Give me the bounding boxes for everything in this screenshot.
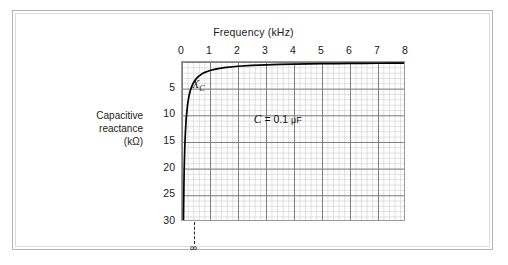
capacitance-unit: μF — [291, 115, 302, 125]
x-tick-label-2: 2 — [227, 44, 247, 56]
infinity-dashed-line — [194, 222, 195, 244]
figure-frame: Frequency (kHz) 012345678 Capacitive rea… — [12, 10, 493, 250]
curve-label-xc: XC — [192, 78, 204, 93]
capacitance-annotation: C = 0.1 μF — [254, 113, 302, 125]
y-tick-label-25: 25 — [141, 187, 175, 199]
x-tick-label-8: 8 — [395, 44, 415, 56]
y-axis-label-line-3: (kΩ) — [21, 135, 143, 148]
plot-area — [181, 61, 405, 221]
y-tick-label-20: 20 — [141, 161, 175, 173]
y-axis-tick-labels: 51015202530 — [139, 11, 175, 251]
y-tick-label-15: 15 — [141, 134, 175, 146]
capacitive-reactance-curve — [182, 62, 405, 221]
x-axis-tick-labels: 012345678 — [13, 44, 494, 58]
y-axis-label-line-1: Capacitive — [21, 109, 143, 122]
infinity-symbol: ∞ — [183, 242, 205, 253]
y-axis-label-line-2: reactance — [21, 122, 143, 135]
x-tick-label-5: 5 — [311, 44, 331, 56]
x-tick-label-6: 6 — [339, 44, 359, 56]
x-tick-label-7: 7 — [367, 44, 387, 56]
y-axis-label: Capacitive reactance (kΩ) — [21, 109, 143, 148]
xc-subscript: C — [199, 84, 204, 93]
x-tick-label-1: 1 — [199, 44, 219, 56]
y-tick-label-30: 30 — [141, 214, 175, 226]
x-tick-label-3: 3 — [255, 44, 275, 56]
x-tick-label-4: 4 — [283, 44, 303, 56]
capacitance-equals-value: = 0.1 — [261, 113, 290, 125]
y-tick-label-5: 5 — [141, 81, 175, 93]
y-tick-label-10: 10 — [141, 107, 175, 119]
chart-title: Frequency (kHz) — [13, 26, 494, 38]
